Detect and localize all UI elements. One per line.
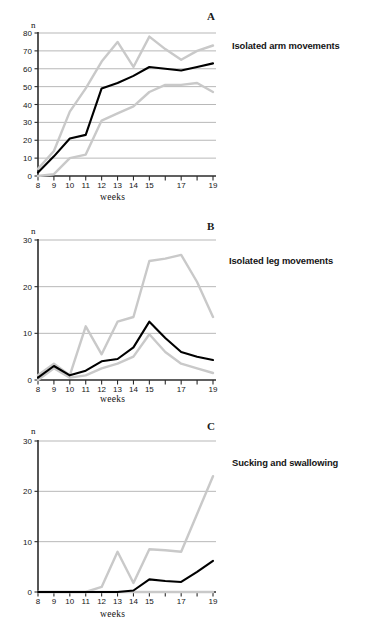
x-tick-label: 8 [36, 597, 41, 606]
y-tick-label: 80 [23, 29, 32, 38]
x-tick-label: 17 [177, 385, 186, 394]
x-tick-label: 8 [36, 181, 41, 190]
y-tick-label: 20 [23, 487, 32, 496]
x-tick-label: 17 [177, 597, 186, 606]
x-tick-label: 13 [113, 181, 122, 190]
x-tick-label: 12 [97, 181, 106, 190]
panel-a-caption: Isolated arm movements [232, 40, 340, 51]
y-tick-label: 0 [28, 376, 33, 385]
x-tick-label: 9 [52, 181, 57, 190]
panel-b-letter: B [207, 220, 215, 232]
chart-c-plot: 0102030891011121314151719 [0, 416, 377, 631]
series-line-median [38, 63, 213, 172]
y-tick-label: 70 [23, 47, 32, 56]
series-line-upper-range [38, 255, 213, 375]
panel-a-y-axis-title: n [31, 20, 36, 30]
x-tick-label: 11 [82, 181, 91, 190]
y-tick-label: 10 [23, 329, 32, 338]
x-tick-label: 12 [97, 385, 106, 394]
figure-fetal-movements: 01020304050607080891011121314151719 A n … [0, 0, 377, 635]
x-tick-label: 10 [65, 181, 74, 190]
x-tick-label: 9 [52, 597, 57, 606]
x-tick-label: 14 [129, 181, 138, 190]
chart-panel-b: 0102030891011121314151719 B n Isolated l… [0, 212, 377, 410]
x-tick-label: 19 [209, 181, 218, 190]
chart-panel-c: 0102030891011121314151719 C n Sucking an… [0, 416, 377, 631]
x-tick-label: 11 [82, 597, 91, 606]
panel-a-letter: A [207, 10, 215, 22]
x-tick-label: 15 [145, 181, 154, 190]
x-tick-label: 19 [209, 597, 218, 606]
x-tick-label: 15 [145, 385, 154, 394]
panel-a-x-axis-title: weeks [100, 192, 125, 202]
panel-b-y-axis-title: n [31, 226, 36, 236]
y-tick-label: 20 [23, 283, 32, 292]
y-tick-label: 30 [23, 236, 32, 245]
series-line-upper-range [38, 37, 213, 169]
y-tick-label: 30 [23, 118, 32, 127]
x-tick-label: 19 [209, 385, 218, 394]
x-tick-label: 9 [52, 385, 57, 394]
series-line-lower-range [38, 83, 213, 176]
x-tick-label: 12 [97, 597, 106, 606]
panel-b-x-axis-title: weeks [100, 394, 125, 404]
x-tick-label: 11 [82, 385, 91, 394]
series-line-median [38, 322, 213, 378]
panel-c-letter: C [207, 420, 215, 432]
x-tick-label: 14 [129, 597, 138, 606]
x-tick-label: 10 [65, 385, 74, 394]
x-tick-label: 13 [113, 385, 122, 394]
panel-c-x-axis-title: weeks [100, 609, 125, 619]
y-tick-label: 0 [28, 588, 33, 597]
panel-b-caption: Isolated leg movements [229, 255, 333, 266]
panel-c-caption: Sucking and swallowing [232, 457, 338, 468]
x-tick-label: 17 [177, 181, 186, 190]
x-tick-label: 13 [113, 597, 122, 606]
panel-c-y-axis-title: n [31, 426, 36, 436]
y-tick-label: 10 [23, 538, 32, 547]
y-tick-label: 20 [23, 136, 32, 145]
x-tick-label: 15 [145, 597, 154, 606]
chart-b-plot: 0102030891011121314151719 [0, 212, 377, 410]
series-line-upper-range [38, 476, 213, 592]
x-tick-label: 8 [36, 385, 41, 394]
x-tick-label: 14 [129, 385, 138, 394]
chart-panel-a: 01020304050607080891011121314151719 A n … [0, 6, 377, 206]
y-tick-label: 10 [23, 154, 32, 163]
y-tick-label: 30 [23, 437, 32, 446]
chart-a-plot: 01020304050607080891011121314151719 [0, 6, 377, 206]
x-tick-label: 10 [65, 597, 74, 606]
y-tick-label: 40 [23, 101, 32, 110]
y-tick-label: 50 [23, 83, 32, 92]
y-tick-label: 60 [23, 65, 32, 74]
y-tick-label: 0 [28, 172, 33, 181]
